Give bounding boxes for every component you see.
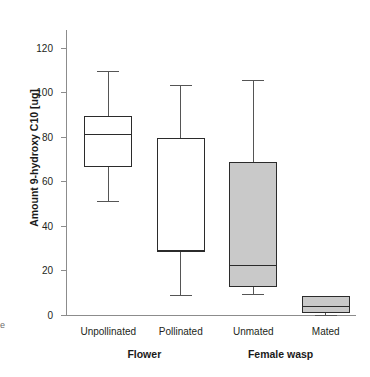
box-mated — [302, 30, 350, 315]
box-pollinated — [157, 30, 205, 315]
box-unmated — [229, 30, 277, 315]
median-line — [229, 265, 277, 266]
upper-whisker — [108, 71, 109, 116]
x-tick-label-pollinated: Pollinated — [159, 326, 203, 337]
median-line — [302, 306, 350, 307]
y-tick-100: 100 — [61, 92, 66, 93]
y-tick-label-20: 20 — [42, 265, 53, 276]
plot-area: 020406080100120UnpollinatedPollinatedUnm… — [66, 30, 356, 315]
box-rect — [302, 296, 350, 313]
lower-whisker-cap — [97, 201, 119, 202]
upper-whisker — [253, 80, 254, 162]
boxplot-figure: e Amount 9-hydroxy C10 [ug] 020406080100… — [0, 0, 370, 377]
lower-whisker-cap — [315, 315, 337, 316]
x-tick-label-unpollinated: Unpollinated — [80, 326, 136, 337]
y-axis-line — [66, 30, 67, 315]
y-tick-label-0: 0 — [47, 310, 53, 321]
y-tick-80: 80 — [61, 137, 66, 138]
lower-whisker — [253, 287, 254, 294]
group-label-flower: Flower — [127, 348, 161, 360]
lower-whisker — [108, 167, 109, 202]
upper-whisker-cap — [97, 71, 119, 72]
y-tick-label-40: 40 — [42, 220, 53, 231]
box-unpollinated — [84, 30, 132, 315]
y-tick-label-60: 60 — [42, 176, 53, 187]
median-line — [157, 251, 205, 252]
median-line — [84, 134, 132, 135]
left-edge-glyph: e — [0, 320, 5, 330]
y-tick-0: 0 — [61, 315, 66, 316]
box-rect — [84, 116, 132, 167]
upper-whisker — [180, 85, 181, 138]
y-tick-label-80: 80 — [42, 131, 53, 142]
x-axis-line — [66, 315, 356, 316]
lower-whisker — [180, 251, 181, 295]
x-tick-label-mated: Mated — [312, 326, 340, 337]
box-rect — [229, 162, 277, 287]
box-rect — [157, 138, 205, 251]
x-tick-label-unmated: Unmated — [233, 326, 274, 337]
y-tick-40: 40 — [61, 226, 66, 227]
upper-whisker-cap — [170, 85, 192, 86]
y-tick-60: 60 — [61, 181, 66, 182]
upper-whisker-cap — [242, 80, 264, 81]
y-tick-120: 120 — [61, 48, 66, 49]
y-tick-label-100: 100 — [36, 87, 53, 98]
lower-whisker-cap — [242, 294, 264, 295]
y-tick-20: 20 — [61, 270, 66, 271]
group-label-female-wasp: Female wasp — [248, 348, 313, 360]
y-tick-label-120: 120 — [36, 42, 53, 53]
lower-whisker-cap — [170, 295, 192, 296]
